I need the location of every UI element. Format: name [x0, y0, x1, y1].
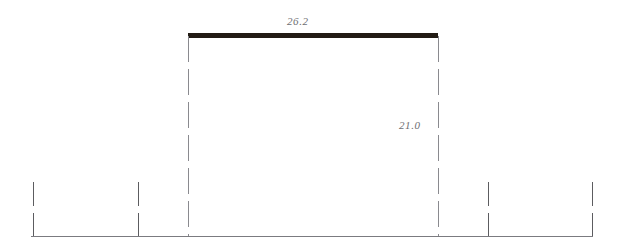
diagram-canvas: 26.2 21.0 — [0, 0, 626, 250]
diagram-svg — [0, 0, 626, 250]
right-height-dimension-label: 21.0 — [399, 119, 421, 131]
top-span-dimension-label: 26.2 — [287, 15, 309, 27]
